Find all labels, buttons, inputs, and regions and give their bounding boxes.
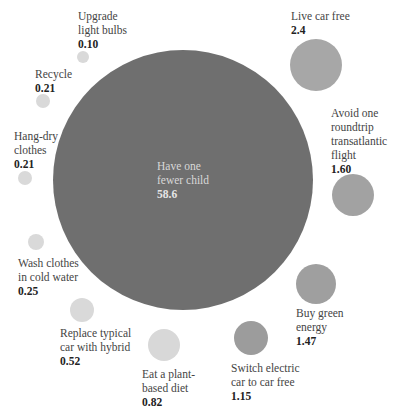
bubble-replace-typical-car-with-hybrid [70, 298, 94, 322]
bubble-buy-green-energy [296, 264, 336, 304]
bubble-label: Hang-dry clothes0.21 [14, 129, 74, 171]
bubble-avoid-one-roundtrip-transatlantic-flight [332, 174, 374, 216]
bubble-label: Live car free2.4 [291, 9, 381, 37]
label-value: 2.4 [291, 23, 381, 37]
label-text: Have one fewer child [157, 160, 209, 186]
label-text: Switch electric car to car free [231, 362, 300, 388]
bubble-label: Switch electric car to car free1.15 [231, 361, 321, 403]
label-text: Replace typical car with hybrid [60, 327, 131, 353]
bubble-label: Eat a plant- based diet0.82 [142, 367, 202, 409]
bubble-hang-dry-clothes [18, 171, 32, 185]
label-text: Recycle [35, 68, 72, 80]
bubble-switch-electric-car-to-car-free [234, 321, 268, 355]
bubble-upgrade-light-bulbs [77, 51, 89, 63]
label-text: Eat a plant- based diet [142, 368, 195, 394]
bubble-label: Buy green energy1.47 [296, 306, 366, 348]
label-value: 0.52 [60, 354, 140, 368]
label-value: 0.10 [78, 37, 148, 51]
bubble-live-car-free [290, 39, 342, 91]
label-value: 0.82 [142, 395, 202, 409]
bubble-eat-a-plant-based-diet [148, 329, 180, 361]
label-value: 58.6 [157, 187, 217, 201]
bubble-label: Replace typical car with hybrid0.52 [60, 326, 140, 368]
bubble-recycle [36, 94, 50, 108]
bubble-label: Upgrade light bulbs0.10 [78, 9, 148, 51]
bubble-wash-clothes-in-cold-water [28, 234, 44, 250]
bubble-label: Wash clothes in cold water0.25 [18, 256, 98, 298]
label-text: Buy green energy [296, 307, 344, 333]
label-text: Live car free [291, 10, 350, 22]
label-value: 1.47 [296, 334, 366, 348]
bubble-label: Have one fewer child58.6 [157, 159, 217, 201]
label-value: 0.25 [18, 284, 98, 298]
bubble-label: Avoid one roundtrip transatlantic flight… [331, 106, 395, 176]
bubble-chart: Have one fewer child58.6Live car free2.4… [0, 0, 395, 414]
label-value: 1.15 [231, 389, 321, 403]
label-value: 0.21 [14, 157, 74, 171]
label-text: Avoid one roundtrip transatlantic flight [331, 107, 387, 161]
bubble-label: Recycle0.21 [35, 67, 95, 95]
label-value: 0.21 [35, 81, 95, 95]
label-value: 1.60 [331, 162, 395, 176]
label-text: Hang-dry clothes [14, 130, 58, 156]
label-text: Wash clothes in cold water [18, 257, 79, 283]
label-text: Upgrade light bulbs [78, 10, 127, 36]
